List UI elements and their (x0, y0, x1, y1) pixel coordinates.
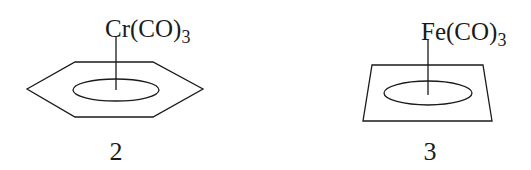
metal-fragment-label: Fe(CO)3 (421, 18, 506, 50)
compound-3: Fe(CO)3 3 (363, 18, 506, 166)
compound-2: Cr(CO)3 2 (27, 15, 203, 166)
benzene-ring-hexagon (27, 62, 203, 117)
compound-number: 3 (424, 137, 437, 166)
compound-number: 2 (110, 137, 123, 166)
metal-fragment-label: Cr(CO)3 (105, 15, 190, 47)
diagram-canvas: Cr(CO)3 2 Fe(CO)3 3 (0, 0, 531, 170)
